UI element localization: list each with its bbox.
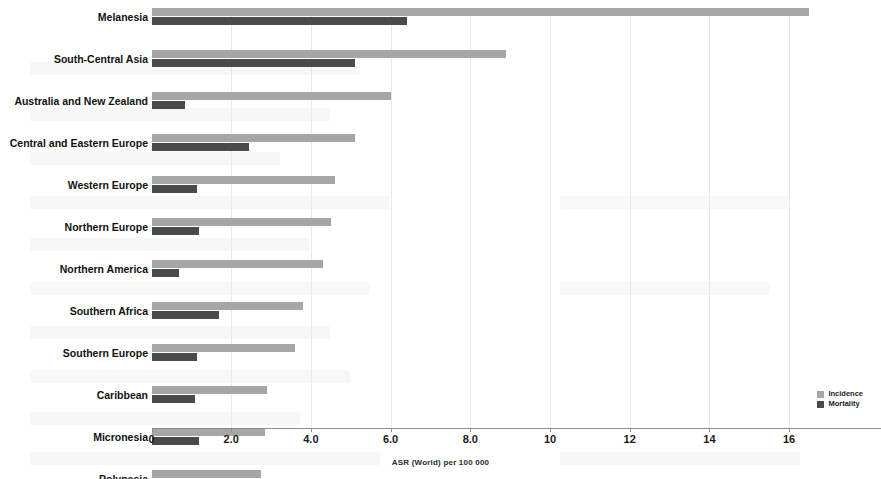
bar-row[interactable]: Southern Europe xyxy=(0,176,881,197)
bar-mortality[interactable] xyxy=(152,437,200,445)
x-axis-tick-label: 12 xyxy=(624,433,636,445)
legend-item-mortality[interactable]: Mortality xyxy=(817,399,863,409)
x-axis-tick xyxy=(470,428,471,432)
bar-row[interactable]: South America xyxy=(0,260,881,281)
x-axis-tick-label: 14 xyxy=(703,433,715,445)
bar-row[interactable]: Eastern Asia xyxy=(0,323,881,344)
bar-incidence[interactable] xyxy=(152,470,262,478)
bar-chart: MelanesiaSouth-Central AsiaAustralia and… xyxy=(0,0,881,479)
chart-legend: Incidence Mortality xyxy=(817,389,863,409)
legend-item-incidence[interactable]: Incidence xyxy=(817,389,863,399)
bar-row[interactable]: Australia and New Zealand xyxy=(0,50,881,71)
square-swatch-icon xyxy=(817,391,824,398)
x-axis-tick-label: 4.0 xyxy=(303,433,318,445)
bar-row[interactable]: Southern Africa xyxy=(0,155,881,176)
x-axis-title: ASR (World) per 100 000 xyxy=(0,458,881,467)
bar-row[interactable]: Polynesia xyxy=(0,239,881,260)
legend-label-mortality: Mortality xyxy=(828,399,859,409)
bar-row[interactable]: South-Central Asia xyxy=(0,29,881,50)
x-axis-tick xyxy=(789,428,790,432)
x-axis-tick-label: 8.0 xyxy=(463,433,478,445)
bar-row[interactable]: Melanesia xyxy=(0,8,881,29)
bar-row[interactable]: Middle Africa xyxy=(0,365,881,386)
bar-row[interactable]: Caribbean xyxy=(0,197,881,218)
bar-row[interactable]: Western Africa xyxy=(0,407,881,428)
bar-row[interactable]: Western Europe xyxy=(0,92,881,113)
bar-mortality[interactable] xyxy=(152,17,407,25)
x-axis-tick-label: 6.0 xyxy=(383,433,398,445)
category-label: Polynesia xyxy=(99,474,148,479)
x-axis-tick xyxy=(231,428,232,432)
x-axis-tick xyxy=(630,428,631,432)
x-axis-line xyxy=(152,428,881,429)
x-axis-tick xyxy=(550,428,551,432)
legend-label-incidence: Incidence xyxy=(828,389,863,399)
bar-row[interactable]: Micronesia xyxy=(0,218,881,239)
bar-incidence[interactable] xyxy=(152,8,810,16)
x-axis-tick-label: 2.0 xyxy=(224,433,239,445)
bar-row[interactable]: Eastern Africa xyxy=(0,302,881,323)
bar-row[interactable]: Northern America xyxy=(0,134,881,155)
bar-incidence[interactable] xyxy=(152,428,266,436)
x-axis-tick-label: 16 xyxy=(783,433,795,445)
bar-row[interactable]: Northern Europe xyxy=(0,113,881,134)
x-axis-tick xyxy=(152,428,153,432)
x-axis-tick xyxy=(311,428,312,432)
x-axis-tick-label: 10 xyxy=(544,433,556,445)
x-axis-tick-label: 0 xyxy=(148,433,154,445)
x-axis-tick xyxy=(391,428,392,432)
square-swatch-icon xyxy=(817,401,824,408)
bar-rows: MelanesiaSouth-Central AsiaAustralia and… xyxy=(0,8,881,428)
category-label: Melanesia xyxy=(98,12,148,23)
bar-row[interactable]: South-Eastern Asia xyxy=(0,281,881,302)
bar-row[interactable]: Northern Africa xyxy=(0,386,881,407)
x-axis-tick xyxy=(709,428,710,432)
bar-row[interactable]: Western Asia xyxy=(0,344,881,365)
bar-row[interactable]: Central and Eastern Europe xyxy=(0,71,881,92)
category-label: Micronesia xyxy=(93,432,148,443)
